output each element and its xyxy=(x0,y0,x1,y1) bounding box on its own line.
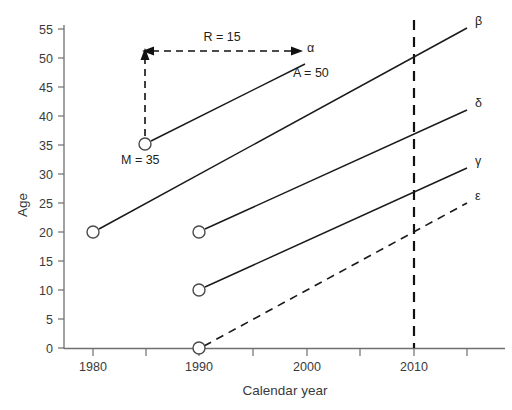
x-axis-tick-labels: 1980 1990 2000 2010 xyxy=(79,360,428,374)
series-label-gamma: γ xyxy=(475,154,482,168)
x-axis-ticks xyxy=(93,348,467,356)
y-tick-label: 5 xyxy=(46,313,53,327)
y-tick-label: 25 xyxy=(39,197,53,211)
series-marker-delta xyxy=(193,226,205,238)
series-label-epsilon: ε xyxy=(475,189,481,203)
arrowhead-right-icon xyxy=(291,47,303,56)
y-tick-label: 55 xyxy=(39,23,53,37)
y-tick-label: 15 xyxy=(39,255,53,269)
series-label-beta: β xyxy=(475,14,482,28)
y-tick-label: 0 xyxy=(46,342,53,356)
y-tick-label: 30 xyxy=(39,168,53,182)
series-line-gamma xyxy=(205,168,467,287)
series-line-epsilon xyxy=(204,203,467,346)
annotation-label-cohort-end: A = 50 xyxy=(293,66,329,80)
series-line-delta xyxy=(205,110,467,229)
y-axis-tick-labels: 55 50 45 40 35 30 25 20 15 10 5 0 xyxy=(39,23,53,356)
series-marker-epsilon xyxy=(193,342,205,354)
y-axis-title: Age xyxy=(15,193,30,217)
x-tick-label: 1990 xyxy=(185,360,213,374)
x-tick-label: 2010 xyxy=(400,360,428,374)
y-tick-label: 50 xyxy=(39,52,53,66)
y-axis-ticks xyxy=(58,29,64,348)
figure-container: 55 50 45 40 35 30 25 20 15 10 5 0 1980 1… xyxy=(0,0,512,410)
y-tick-label: 20 xyxy=(39,226,53,240)
series-marker-beta xyxy=(87,226,99,238)
chart-svg: 55 50 45 40 35 30 25 20 15 10 5 0 1980 1… xyxy=(0,0,512,410)
annotation-label-period: R = 15 xyxy=(203,30,240,44)
series-line-beta xyxy=(99,28,467,229)
x-axis-title: Calendar year xyxy=(243,383,328,398)
series-label-delta: δ xyxy=(475,96,482,110)
annotation-label-cohort-start: M = 35 xyxy=(121,153,160,167)
series-marker-gamma xyxy=(193,284,205,296)
series-label-alpha: α xyxy=(307,41,314,55)
x-tick-label: 1980 xyxy=(79,360,107,374)
y-tick-label: 35 xyxy=(39,139,53,153)
y-tick-label: 45 xyxy=(39,81,53,95)
y-tick-label: 40 xyxy=(39,110,53,124)
y-tick-label: 10 xyxy=(39,284,53,298)
series-marker-alpha xyxy=(139,138,151,150)
x-tick-label: 2000 xyxy=(293,360,321,374)
